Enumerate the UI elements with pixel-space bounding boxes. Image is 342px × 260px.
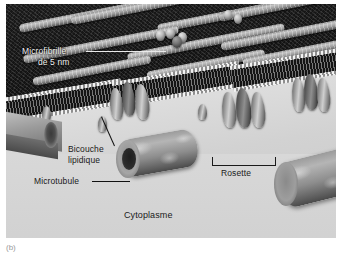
rosette-label: Rosette (221, 168, 251, 179)
lipid-bilayer-label: Bicouche lipidique (68, 144, 104, 165)
microfibril-label-line1: Microfibrille (22, 46, 66, 56)
rosette-globule (172, 36, 182, 48)
lipid-bilayer-label-line2: lipidique (68, 155, 100, 165)
membrane-protein (198, 104, 207, 120)
rosette-globule (156, 30, 165, 41)
microtubule-label-text: Microtubule (34, 176, 79, 186)
lipid-bilayer-label-line1: Bicouche (68, 144, 104, 154)
rosette-globule (234, 14, 242, 24)
illustration-scene: Microfibrille de 5 nm Bicouche lipidique… (6, 4, 336, 238)
rosette-label-text: Rosette (221, 168, 251, 178)
microfibril-label-line2: de 5 nm (22, 57, 69, 68)
microfibril-leader-line (86, 51, 166, 52)
rosette-bracket (212, 157, 276, 166)
microtubule-leader-line (92, 181, 130, 182)
cytoplasm-label: Cytoplasme (124, 210, 173, 221)
cytoplasm-label-text: Cytoplasme (124, 210, 173, 220)
rosette-globule (224, 10, 232, 20)
microtubule-right-cap (274, 162, 298, 206)
microtubule-label: Microtubule (34, 176, 79, 187)
microtubule-lumen (122, 148, 136, 170)
figure-panel: Microfibrille de 5 nm Bicouche lipidique… (0, 0, 342, 260)
microtubule-left-cap (44, 122, 58, 148)
microfibril-label: Microfibrille de 5 nm (22, 46, 69, 67)
figure-caption-marker: (b) (6, 243, 16, 252)
